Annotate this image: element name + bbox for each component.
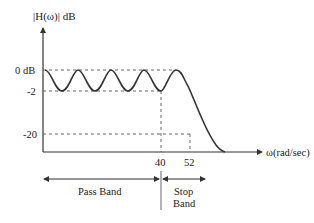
x-tick-52: 52 xyxy=(184,157,195,168)
x-tick-40: 40 xyxy=(155,157,166,168)
y-tick-minus20: -20 xyxy=(23,129,37,140)
y-tick-0db: 0 dB xyxy=(15,65,35,76)
passband-label: Pass Band xyxy=(78,186,122,197)
y-tick-minus2: -2 xyxy=(27,86,36,97)
passband-ripple-curve xyxy=(45,70,188,91)
filter-response-diagram: |H(ω)| dB 0 dB -2 -20 40 52 ω(rad/sec) P… xyxy=(0,0,314,223)
y-axis-label: |H(ω)| dB xyxy=(33,10,76,23)
stopband-label-line1: Stop xyxy=(174,186,193,197)
stopband-label-line2: Band xyxy=(173,198,196,209)
stopband-rolloff-curve xyxy=(188,86,225,152)
x-axis-label: ω(rad/sec) xyxy=(266,147,310,159)
